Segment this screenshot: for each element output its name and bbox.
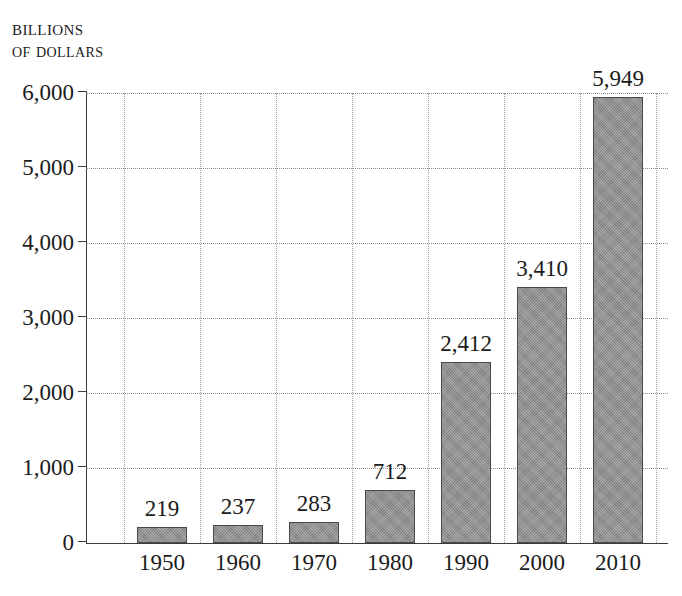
y-axis-title-line-1: Billions	[12, 17, 103, 39]
gridline-vertical	[580, 93, 581, 543]
bar-1980	[365, 490, 415, 543]
y-axis-title-line-2: of dollars	[12, 39, 103, 61]
y-axis-tick-label: 2,000	[0, 381, 74, 404]
x-axis-baseline	[86, 543, 668, 544]
bar-value-label: 3,410	[497, 257, 587, 280]
bar-value-label: 2,412	[421, 332, 511, 355]
y-axis-title: Billions of dollars	[12, 17, 103, 61]
bar-2000	[517, 287, 567, 543]
y-axis-tick-label: 6,000	[0, 81, 74, 104]
x-axis-tick-labels: 1950196019701980199020002010	[86, 549, 668, 583]
gridline-vertical	[124, 93, 125, 543]
bar-value-label: 712	[345, 460, 435, 483]
y-axis-tick-label: 0	[0, 531, 74, 554]
gridline-vertical	[200, 93, 201, 543]
bar-1990	[441, 362, 491, 543]
y-axis-tick-label: 3,000	[0, 306, 74, 329]
bar-1960	[213, 525, 263, 543]
gridline-vertical	[276, 93, 277, 543]
gridline-vertical	[428, 93, 429, 543]
y-axis-tick-label: 5,000	[0, 156, 74, 179]
y-axis-tick-mark	[78, 91, 87, 92]
bar-chart: Billions of dollars 01,0002,0003,0004,00…	[0, 0, 682, 596]
gridline-vertical	[656, 93, 657, 543]
y-axis-tick-labels: 01,0002,0003,0004,0005,0006,000	[0, 93, 74, 543]
bar-2010	[593, 97, 643, 543]
x-axis-tick-label: 2010	[573, 549, 663, 577]
bar-1950	[137, 527, 187, 543]
bar-value-label: 283	[269, 492, 359, 515]
bar-value-label: 5,949	[573, 67, 663, 90]
gridline-vertical	[504, 93, 505, 543]
y-axis-tick-label: 4,000	[0, 231, 74, 254]
y-axis-tick-label: 1,000	[0, 456, 74, 479]
bar-1970	[289, 522, 339, 543]
plot-area: 2192372837122,4123,4105,949	[86, 93, 668, 543]
